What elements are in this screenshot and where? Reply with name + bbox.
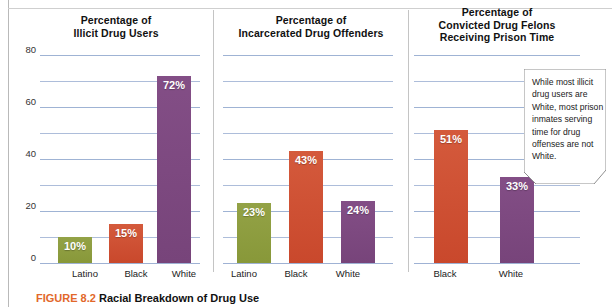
y-axis-tick-80: 80 [14,44,36,55]
callout-text: While most illicit drug users are White,… [532,76,604,163]
chart-title-3: Percentage of Convicted Drug Felons Rece… [410,6,584,44]
chart-title-2-line2: Incarcerated Drug Offenders [217,27,405,40]
y-axis-tick-40: 40 [14,148,36,159]
bar-white: 33% [500,177,534,263]
chart-title-3-line3: Receiving Prison Time [410,31,584,44]
axis-baseline [414,263,580,264]
chart-title-1-line1: Percentage of [28,14,204,27]
chart-title-2: Percentage of Incarcerated Drug Offender… [217,14,405,39]
chart-panel-illicit-drug-users: Percentage of Illicit Drug Users 80 60 4… [0,0,213,307]
bar-value-black: 15% [109,227,143,239]
chart-panel-incarcerated-drug-offenders: Percentage of Incarcerated Drug Offender… [213,0,408,307]
figure-caption-label: FIGURE 8.2 [36,292,96,304]
bar-black: 43% [289,151,323,263]
chart-title-3-line2: Convicted Drug Felons [410,19,584,32]
bar-black: 15% [109,224,143,263]
bar-latino: 10% [58,237,92,263]
y-axis-tick-20: 20 [14,200,36,211]
bar-value-latino: 10% [58,240,92,252]
bar-value-white: 24% [341,204,375,216]
bar-white: 72% [157,76,191,263]
y-axis-tick-60: 60 [14,96,36,107]
bar-latino: 23% [237,203,271,263]
bar-black: 51% [434,130,468,263]
x-label-white: White [468,268,554,279]
chart-title-2-line1: Percentage of [217,14,405,27]
bar-value-black: 43% [289,154,323,166]
bar-value-latino: 23% [237,206,271,218]
callout-speech-bubble: While most illicit drug users are White,… [524,69,606,184]
chart-title-1: Percentage of Illicit Drug Users [28,14,204,39]
x-label-white: White [305,268,391,279]
chart-title-3-line1: Percentage of [410,6,584,19]
axis-baseline [40,263,200,264]
figure-container: Percentage of Illicit Drug Users 80 60 4… [0,0,612,307]
figure-caption: FIGURE 8.2 Racial Breakdown of Drug Use [36,292,596,304]
axis-baseline [223,263,393,264]
bar-value-white: 72% [157,79,191,91]
plot-area-2: 23% 43% 24% [223,55,393,263]
figure-caption-text: Racial Breakdown of Drug Use [99,292,259,304]
bar-value-black: 51% [434,133,468,145]
chart-title-1-line2: Illicit Drug Users [28,27,204,40]
plot-area-1: 10% 15% 72% [40,55,200,263]
bar-white: 24% [341,201,375,263]
y-axis-tick-0: 0 [14,252,36,263]
